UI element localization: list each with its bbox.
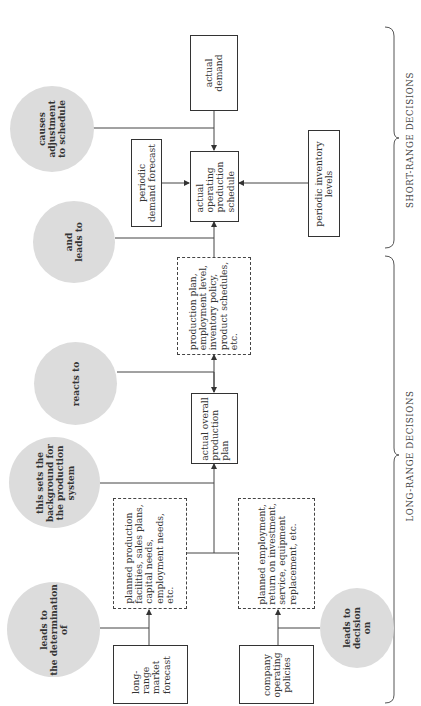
company-operating-policies-box: company operating policies [239, 645, 314, 704]
periodic-inventory-levels-box: periodic inventory levels [308, 130, 340, 237]
production-planning-diagram: actual demand actual operating productio… [0, 0, 421, 706]
actual-operating-schedule-box: actual operating production schedule [190, 151, 239, 222]
short-range-label: SHORT-RANGE DECISIONS [405, 72, 415, 208]
leads-to-decision-circle: leads to decision on [320, 588, 394, 668]
actual-overall-plan-box: actual overall production plan [191, 393, 238, 464]
actual-demand-box: actual demand [190, 35, 238, 111]
causes-adjustment-circle: causes adjustment to schedule [10, 86, 94, 172]
periodic-demand-forecast-box: periodic demand forecast [131, 139, 162, 227]
planned-employment-box: planned employment, return on investment… [238, 498, 315, 609]
section-braces [385, 27, 399, 703]
long-range-label: LONG-RANGE DECISIONS [405, 390, 415, 521]
production-plan-details-box: production plan, employment level, inven… [177, 257, 251, 355]
planned-production-facilities-box: planned production facilities, sales pla… [113, 498, 187, 609]
long-range-market-forecast-box: long- range market forecast [113, 645, 188, 704]
reacts-to-circle: reacts to [34, 342, 117, 425]
leads-to-determination-circle: leads to the determination of [7, 582, 100, 677]
sets-background-circle: this sets the background for the product… [9, 437, 100, 528]
and-leads-to-circle: and leads to [33, 201, 115, 283]
